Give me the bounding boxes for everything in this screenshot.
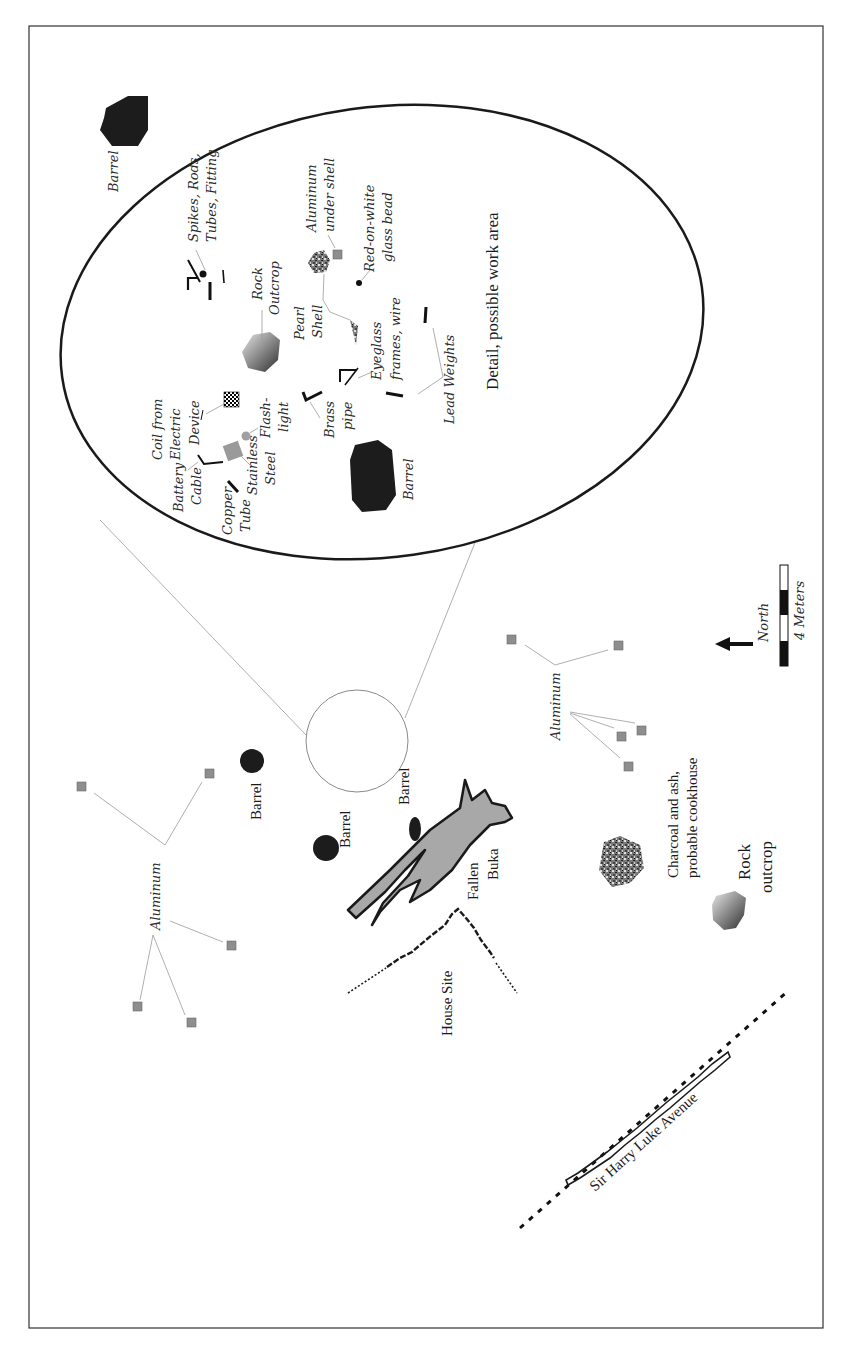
label-aluminum-right: Aluminum [548, 673, 563, 741]
lead-weight-icon-1 [425, 307, 426, 323]
coil-icon [224, 392, 239, 407]
house-site-wall [387, 909, 494, 967]
aluminum-group-right: Aluminum [507, 635, 646, 771]
label-fallen-1: Fallen [465, 862, 481, 900]
label-barrel-1: Barrel [248, 783, 264, 820]
label-stainless-2: Steel [263, 451, 278, 485]
road-dashed-line [520, 991, 788, 1228]
label-charcoal-1: Charcoal and ash, [665, 771, 681, 878]
label-aluminum-left: Aluminum [148, 863, 163, 931]
label-pearl-2: Shell [310, 305, 325, 338]
label-pearl-1: Pearl [292, 306, 307, 341]
label-house-site: House Site [439, 970, 455, 1036]
label-brass-2: pipe [340, 401, 355, 430]
label-spikes-1: Spikes, Rods, [186, 153, 201, 242]
label-charcoal-2: probable cookhouse [684, 757, 700, 878]
tube-icon [223, 270, 224, 283]
label-bead-1: Red-on-white [362, 184, 377, 273]
aluminum-under-shell-square-icon [333, 250, 342, 259]
label-brass-1: Brass [322, 401, 337, 439]
label-spikes-2: Tubes, Fitting [204, 150, 219, 242]
detail-location-circle [306, 690, 408, 792]
label-copper-2: Tube [238, 499, 253, 532]
label-rock-2: outcrop [757, 841, 776, 893]
label-barrel-2: Barrel [337, 811, 353, 848]
house-site-dotted-left [348, 968, 386, 993]
label-rock-inset-1: Rock [250, 267, 265, 301]
label-flash-2: light [276, 401, 291, 432]
barrel-top-icon [100, 96, 148, 146]
label-aluminum-inset-1: Aluminum [304, 165, 319, 233]
label-scale: 4 Meters [792, 580, 807, 641]
label-copper-1: Copper [220, 486, 235, 535]
rod-dot-icon [200, 271, 207, 278]
north-arrow-icon [715, 637, 730, 651]
label-rock-1: Rock [735, 844, 754, 880]
label-stainless-1: Stainless [245, 435, 260, 495]
barrel-icon-2 [313, 835, 339, 861]
flashlight-icon [242, 432, 251, 441]
charcoal-ash-icon [599, 836, 644, 887]
label-road: Sir Harry Luke Avenue [586, 1089, 700, 1194]
label-eyeglass-2: frames, wire [388, 297, 403, 381]
site-map: Barrel Barrel Spikes, Rods, Tubes, Fitti… [0, 0, 842, 1356]
label-lead-weights: Lead Weights [442, 334, 457, 425]
label-rock-inset-2: Outcrop [267, 260, 282, 315]
label-coil-3: Device [187, 400, 202, 446]
barrel-bottom-icon [350, 440, 396, 512]
label-aluminum-inset-2: under shell [322, 158, 337, 232]
barrel-icon-3 [409, 817, 421, 841]
label-battery-1: Battery [171, 462, 186, 513]
label-coil-1: Coil from [150, 399, 165, 460]
scale-bar: 4 Meters [780, 565, 807, 666]
label-coil-2: Electric [168, 408, 183, 461]
road-wall [566, 1052, 730, 1185]
label-fallen-2: Buka [485, 848, 501, 880]
label-barrel-top: Barrel [106, 150, 121, 193]
rock-outcrop-icon [712, 891, 746, 930]
label-bead-2: glass bead [380, 192, 395, 262]
label-barrel-3: Barrel [396, 768, 412, 805]
barrel-icon-1 [240, 749, 264, 773]
detail-title: Detail, possible work area [483, 212, 502, 390]
label-eyeglass-1: Eyeglass [369, 322, 384, 381]
glass-bead-icon [356, 280, 362, 286]
aluminum-group-left: Aluminum [77, 769, 236, 1027]
label-north: North [756, 603, 771, 643]
label-flash-1: Flash- [258, 398, 273, 439]
north-arrow: North [715, 603, 771, 651]
house-site-dotted-right [496, 963, 517, 993]
label-battery-2: Cable [189, 467, 204, 505]
label-barrel-bottom: Barrel [401, 458, 416, 501]
